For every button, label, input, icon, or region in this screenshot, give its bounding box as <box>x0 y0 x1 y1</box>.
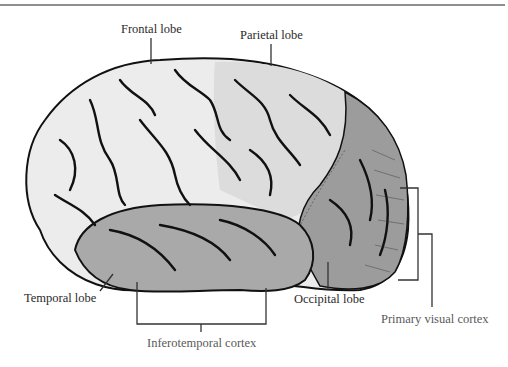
label-parietal-lobe: Parietal lobe <box>240 29 303 42</box>
label-temporal-lobe: Temporal lobe <box>24 292 96 305</box>
primary-visual-connector <box>418 234 432 307</box>
label-occipital-lobe: Occipital lobe <box>294 293 364 306</box>
label-primary-visual-cortex: Primary visual cortex <box>381 313 489 326</box>
temporal-region <box>75 204 313 292</box>
label-frontal-lobe: Frontal lobe <box>121 23 182 36</box>
label-inferotemporal-cortex: Inferotemporal cortex <box>147 337 256 350</box>
